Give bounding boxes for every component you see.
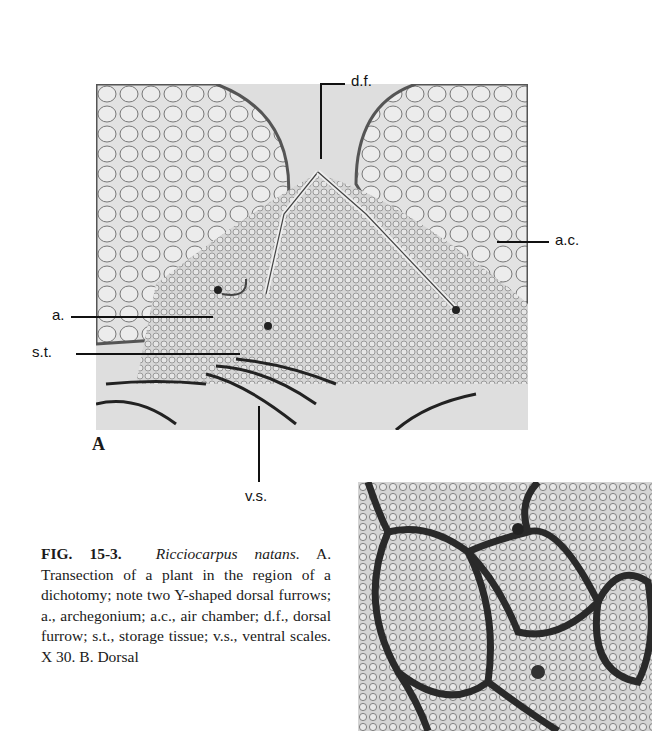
micrograph-panel-a xyxy=(96,84,528,430)
figure-caption: FIG. 15-3. Ricciocarpus natans. A. Trans… xyxy=(41,544,331,668)
st-leader-line xyxy=(76,353,240,355)
df-leader-line xyxy=(320,84,322,159)
label-df: d.f. xyxy=(351,72,372,89)
ac-leader-line xyxy=(497,241,549,243)
label-a: a. xyxy=(52,306,65,323)
label-vs: v.s. xyxy=(245,487,267,504)
transection-image xyxy=(96,84,528,430)
label-st: s.t. xyxy=(32,343,52,360)
vs-leader-line xyxy=(258,406,260,482)
a-leader-line xyxy=(71,316,213,318)
dorsal-view-image xyxy=(358,482,652,731)
species-name: Ricciocarpus natans. xyxy=(156,545,300,562)
figure-number: FIG. 15-3. xyxy=(41,545,122,562)
caption-body: A. Transection of a plant in the region … xyxy=(41,545,331,665)
df-leader-line-top xyxy=(320,83,345,85)
panel-a-label: A xyxy=(92,434,105,455)
micrograph-panel-b xyxy=(358,482,652,731)
label-ac: a.c. xyxy=(555,231,579,248)
